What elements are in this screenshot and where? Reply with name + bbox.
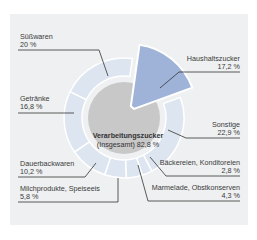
center-label: Verarbeitungszucker (Insgesamt) 82,8 % <box>78 132 178 149</box>
exploded-wedge-haushaltszucker <box>131 45 192 109</box>
label-value: 2,8 % <box>160 167 240 175</box>
label-value: 22,9 % <box>212 129 240 137</box>
label-value: 16,8 % <box>20 103 50 111</box>
label-value: 20 % <box>20 41 53 49</box>
label-marmelade: Marmelade, Obstkonserven 4,3 % <box>152 184 240 201</box>
center-subtitle: (Insgesamt) 82,8 % <box>78 141 178 150</box>
label-value: 10,2 % <box>20 168 74 176</box>
label-dauerbackwaren: Dauerbackwaren 10,2 % <box>20 160 74 177</box>
center-title: Verarbeitungszucker <box>93 131 164 140</box>
label-baeckereien: Bäckereien, Konditoreien 2,8 % <box>160 159 240 176</box>
label-value: 5,8 % <box>20 193 100 201</box>
label-sonstige: Sonstige 22,9 % <box>212 121 240 138</box>
label-haushaltszucker: Haushaltszucker 17,2 % <box>187 55 240 72</box>
label-suesswaren: Süßwaren 20 % <box>20 33 53 50</box>
label-value: 4,3 % <box>152 192 240 200</box>
label-getraenke: Getränke 16,8 % <box>20 95 50 112</box>
label-milchprodukte: Milchprodukte, Speiseeis 5,8 % <box>20 185 100 202</box>
label-value: 17,2 % <box>187 63 240 71</box>
